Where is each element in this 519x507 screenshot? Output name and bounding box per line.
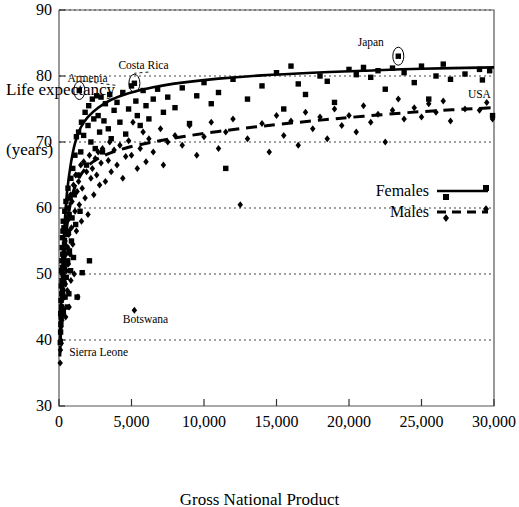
annotation-label-usa: USA	[468, 88, 491, 100]
x-tick-label: 25,000	[400, 413, 444, 431]
annotation-label-japan: Japan	[358, 36, 384, 48]
annotation-label-armenia: Armenia	[67, 72, 107, 84]
annotation-label-costa-rica: Costa Rica	[118, 59, 168, 71]
x-axis-title-line1: Gross National Product	[0, 490, 519, 507]
y-axis-title-line2: (years)	[6, 140, 115, 160]
chart-figure: Life expectancy (years) Gross National P…	[0, 0, 519, 507]
x-tick-label: 0	[55, 413, 63, 431]
x-tick-label: 20,000	[327, 413, 371, 431]
y-tick-label: 60	[36, 199, 52, 217]
legend-symbols	[437, 185, 489, 222]
x-tick-label: 15,000	[255, 413, 299, 431]
y-tick-label: 50	[36, 265, 52, 283]
x-axis-title: Gross National Product (US$) per person	[0, 450, 519, 507]
legend-label-females: Females	[376, 182, 429, 200]
annotation-label-sierra-leone: Sierra Leone	[69, 346, 128, 358]
y-axis-title: Life expectancy (years)	[6, 40, 115, 200]
y-tick-label: 30	[36, 397, 52, 415]
y-tick-label: 70	[36, 133, 52, 151]
y-tick-label: 80	[36, 67, 52, 85]
x-tick-label: 10,000	[182, 413, 226, 431]
annotation-label-botswana: Botswana	[123, 313, 168, 325]
x-axis-ticks	[59, 399, 494, 406]
x-tick-label: 5,000	[114, 413, 150, 431]
legend-label-males: Males	[390, 203, 429, 221]
x-tick-label: 30,000	[472, 413, 516, 431]
y-tick-label: 40	[36, 331, 52, 349]
y-tick-label: 90	[36, 1, 52, 19]
